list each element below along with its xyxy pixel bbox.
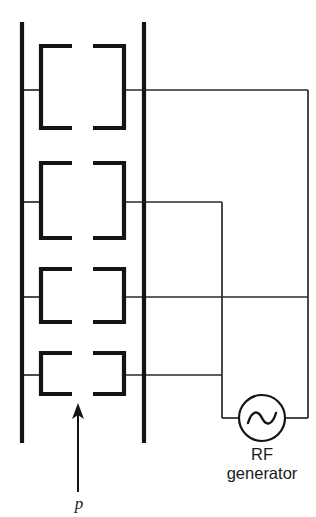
schematic-canvas: RF generator p <box>0 0 316 517</box>
electrode-pair-3 <box>41 269 124 322</box>
electrode-3-left-plate <box>41 269 72 322</box>
quadrupole-rf-schematic: RF generator p <box>0 0 316 517</box>
electrode-4-left-plate <box>41 353 72 394</box>
electrode-1-left-plate <box>41 46 72 128</box>
electrode-2-left-plate <box>41 163 72 238</box>
rf-generator-label-line2: generator <box>227 464 298 482</box>
electrode-4-right-plate <box>93 353 124 394</box>
electrode-pair-2 <box>41 163 124 238</box>
pressure-label: p <box>74 494 84 513</box>
electrode-pair-4 <box>41 353 124 394</box>
electrode-pair-1 <box>41 46 124 128</box>
gas-flow-indicator <box>72 403 84 492</box>
rf-generator-label-line1: RF <box>251 445 273 463</box>
electrode-1-right-plate <box>93 46 124 128</box>
electrode-array <box>41 46 124 394</box>
electrode-2-right-plate <box>93 163 124 238</box>
wiring-network <box>22 90 308 418</box>
rf-generator-symbol <box>239 395 285 441</box>
electrode-3-right-plate <box>93 269 124 322</box>
